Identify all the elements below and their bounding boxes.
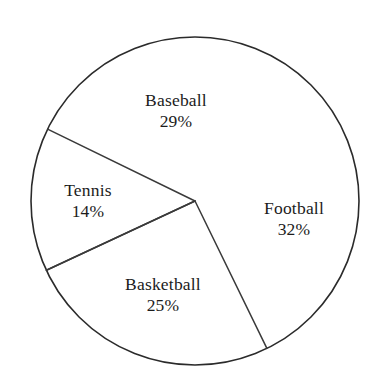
pie-chart: Baseball 29% Football 32% Basketball 25%… <box>0 0 384 391</box>
pie-chart-graphic <box>0 0 384 391</box>
